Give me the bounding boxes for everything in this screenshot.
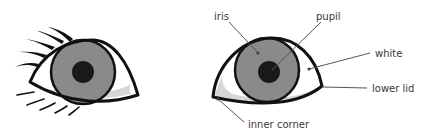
label-lower-lid: lower lid	[372, 83, 414, 94]
left-eye	[15, 27, 138, 115]
right-pupil	[258, 61, 280, 83]
label-inner-corner: inner corner	[248, 119, 310, 130]
label-iris: iris	[214, 11, 229, 22]
eye-diagram: iris pupil white lower lid inner corner	[0, 0, 426, 139]
left-pupil	[72, 61, 94, 83]
white-dot	[307, 67, 310, 70]
white-leader	[309, 53, 370, 69]
label-white: white	[375, 48, 402, 59]
label-pupil: pupil	[316, 11, 341, 22]
right-eye	[213, 38, 322, 103]
lower-lid-leader	[322, 87, 367, 88]
inner-corner-dot	[216, 97, 219, 100]
iris-dot	[256, 51, 259, 54]
